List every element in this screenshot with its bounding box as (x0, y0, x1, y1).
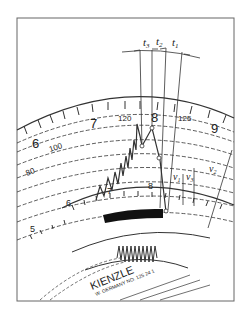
v2-label: v2 (209, 163, 216, 175)
black-bar (103, 209, 163, 223)
speed-arcs (17, 114, 234, 240)
hour-label-7: 7 (90, 116, 97, 131)
trace-node (157, 156, 161, 160)
tachograph-diagram: 6 7 8 9 5 6 7 8 80 100 120 125 t3 t2 t1 … (0, 0, 245, 316)
hour-label-8: 8 (151, 110, 158, 125)
hour-label-5: 5 (30, 224, 35, 234)
trace-node (164, 209, 168, 213)
t3-label: t3 (143, 36, 150, 50)
trace-node (150, 126, 154, 130)
trace-node (140, 144, 144, 148)
inner-hour-label-7: 7 (107, 186, 112, 196)
hour-label-6: 6 (32, 136, 39, 151)
t1-label: t1 (172, 36, 179, 50)
inner-hour-label-6: 6 (66, 198, 71, 208)
time-lines (140, 48, 182, 210)
speed-label-100: 100 (48, 141, 64, 154)
hour-label-9: 9 (211, 121, 218, 136)
v1-label: v1 (173, 171, 180, 183)
time-dimension-line (122, 50, 200, 58)
inner-hour-label-8: 8 (148, 181, 153, 191)
t2-label: t2 (156, 35, 163, 49)
speed-label-120: 120 (118, 114, 132, 123)
speed-label-80: 80 (24, 166, 36, 178)
inner-arc (72, 232, 210, 252)
speed-label-125: 125 (178, 114, 192, 123)
v3-label: v3 (186, 171, 193, 183)
